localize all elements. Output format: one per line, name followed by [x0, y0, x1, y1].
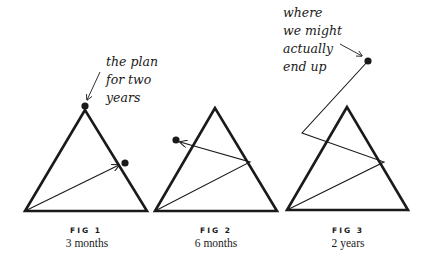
annotation-line-3: actually [283, 41, 334, 56]
end-dot-icon [364, 57, 371, 64]
plan-dot-icon [81, 102, 88, 109]
figure-2: FIG 2 6 months [155, 108, 277, 249]
figure-caption: 6 months [195, 237, 238, 249]
figure-label: FIG 3 [332, 226, 364, 235]
triangle [155, 108, 277, 211]
annotation-line-1: where [283, 5, 323, 20]
figure-caption: 2 years [332, 237, 365, 250]
diagram-canvas: the plan for two years FIG 1 3 months FI… [0, 0, 430, 264]
annotation-line-4: end up [283, 59, 326, 74]
figure-label: FIG 1 [70, 226, 102, 235]
figure-3: where we might actually end up FIG 3 2 y… [283, 5, 408, 250]
figure-label: FIG 2 [200, 226, 232, 235]
current-dot-icon [172, 136, 179, 143]
figure-caption: 3 months [66, 237, 109, 249]
triangle [287, 107, 408, 210]
annotation-arrow [340, 44, 362, 56]
annotation-line-1: the plan [106, 54, 158, 69]
progress-path [287, 61, 384, 210]
current-dot-icon [121, 159, 128, 166]
annotation-arrow [87, 72, 100, 100]
figure-1: the plan for two years FIG 1 3 months [25, 54, 158, 249]
annotation-line-2: for two [105, 72, 151, 87]
annotation-line-2: we might [283, 23, 343, 38]
progress-path [155, 142, 250, 211]
annotation-line-3: years [105, 90, 140, 105]
triangle [25, 110, 147, 211]
